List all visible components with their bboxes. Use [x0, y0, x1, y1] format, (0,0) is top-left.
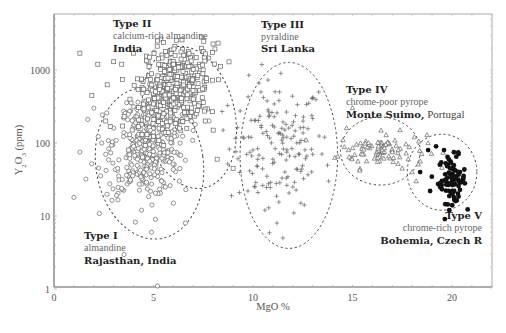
annotation-type-v: Type V chrome-rich pyrope Bohemia, Czech…: [380, 210, 482, 247]
data-point: [298, 126, 302, 130]
data-point: [446, 170, 451, 175]
data-point: [229, 194, 233, 198]
data-point: [263, 208, 267, 212]
data-point: [182, 105, 186, 109]
data-point: [291, 185, 295, 189]
data-point: [150, 72, 154, 76]
data-point: [162, 112, 166, 116]
data-point: [264, 185, 268, 189]
data-point: [105, 192, 109, 196]
data-point: [234, 149, 238, 153]
data-point: [320, 152, 324, 156]
data-point: [78, 150, 82, 154]
data-point: [256, 190, 260, 194]
data-point: [100, 113, 104, 117]
data-point: [151, 134, 155, 138]
data-point: [387, 154, 391, 158]
data-point: [148, 77, 152, 81]
data-point: [289, 136, 293, 140]
data-point: [151, 149, 155, 153]
data-point: [156, 74, 160, 78]
data-point: [133, 220, 137, 224]
data-point: [293, 113, 297, 117]
data-point: [445, 155, 450, 160]
data-point: [108, 124, 112, 128]
data-point: [163, 64, 167, 68]
data-point: [200, 63, 204, 67]
data-point: [182, 83, 186, 87]
data-point: [207, 119, 211, 123]
data-point: [301, 119, 305, 123]
x-tick-label: 15: [348, 292, 358, 303]
data-point: [90, 93, 94, 97]
data-point: [166, 76, 170, 80]
data-point: [106, 158, 110, 162]
data-point: [142, 87, 146, 91]
data-point: [277, 151, 281, 155]
data-point: [287, 154, 291, 158]
data-point: [456, 184, 461, 189]
svg-text:calcium-rich almandine: calcium-rich almandine: [113, 30, 208, 41]
data-point: [274, 194, 278, 198]
data-point: [121, 124, 125, 128]
data-point: [257, 81, 261, 85]
data-point: [111, 161, 115, 165]
data-point: [86, 117, 90, 121]
data-point: [310, 113, 314, 117]
data-point: [187, 64, 191, 68]
data-point: [132, 83, 136, 87]
data-point: [293, 129, 297, 133]
data-point: [287, 191, 291, 195]
data-point: [139, 175, 143, 179]
data-point: [278, 181, 282, 185]
data-point: [185, 127, 189, 131]
data-point: [105, 83, 109, 87]
data-point: [189, 106, 193, 110]
data-point: [250, 171, 254, 175]
data-point: [128, 178, 132, 182]
svg-text:Type IV: Type IV: [346, 84, 388, 95]
data-point: [252, 118, 256, 122]
data-point: [322, 135, 326, 139]
data-point: [169, 141, 173, 145]
data-point: [221, 128, 225, 132]
data-point: [268, 185, 272, 189]
data-point: [204, 77, 208, 81]
data-point: [179, 96, 183, 100]
data-point: [394, 143, 398, 147]
y-tick-label: 1000: [30, 65, 50, 76]
data-point: [273, 90, 277, 94]
data-point: [450, 203, 455, 208]
data-point: [245, 152, 249, 156]
data-point: [168, 120, 172, 124]
data-point: [90, 162, 94, 166]
data-point: [150, 203, 154, 207]
data-point: [99, 174, 103, 178]
data-point: [301, 177, 305, 181]
data-point: [277, 90, 281, 94]
data-point: [157, 187, 161, 191]
data-point: [277, 98, 281, 102]
data-point: [220, 109, 224, 113]
data-point: [172, 102, 176, 106]
data-point: [393, 138, 397, 142]
data-point: [189, 59, 193, 63]
data-point: [295, 102, 299, 106]
data-point: [146, 117, 150, 121]
data-point: [304, 138, 308, 142]
cluster-ellipse-type-iii: [240, 62, 338, 248]
data-point: [96, 134, 100, 138]
data-point: [279, 71, 283, 75]
data-point: [172, 150, 176, 154]
data-point: [171, 167, 175, 171]
data-point: [255, 164, 259, 168]
data-point: [444, 182, 449, 187]
data-point: [461, 175, 466, 180]
data-point: [417, 139, 421, 143]
data-point: [120, 177, 124, 181]
data-point: [292, 134, 296, 138]
x-tick-label: 0: [52, 292, 57, 303]
data-point: [451, 163, 456, 168]
data-point: [201, 87, 205, 91]
data-point: [141, 155, 145, 159]
